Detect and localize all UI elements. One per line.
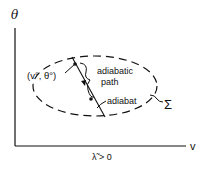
- region-sigma-boundary: [33, 56, 157, 116]
- point-label: (v°, θ°): [27, 70, 56, 81]
- x-axis-label: v: [190, 140, 196, 152]
- diagram-canvas: θ v λ̃ > 0 (v°, θ°) adiabatic path adiab…: [0, 0, 211, 172]
- adiabatic-path-label-line2: path: [101, 77, 119, 87]
- diagram-svg: θ v λ̃ > 0 (v°, θ°) adiabatic path adiab…: [0, 0, 211, 172]
- point-leader-line: [65, 64, 75, 73]
- end-point: [89, 97, 93, 101]
- adiabat-label: adiabat: [107, 96, 137, 106]
- adiabatic-path-brace: [80, 63, 94, 97]
- x-condition-label: λ̃ > 0: [92, 152, 112, 162]
- path-direction-arrow-icon: [81, 80, 86, 86]
- adiabatic-path-label-line1: adiabatic: [97, 66, 134, 76]
- region-sigma-label: Σ: [164, 97, 172, 112]
- y-axis-label: θ: [11, 8, 19, 22]
